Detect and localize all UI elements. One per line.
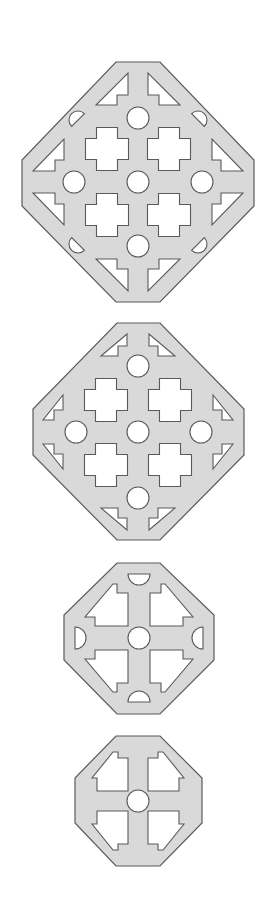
circle-hole [127,421,149,443]
circle-hole [190,421,212,443]
circle-hole [127,790,149,812]
smallest-octagon-tile [75,736,202,866]
medium-tile [33,323,244,540]
perforated-tile-diagram [0,0,275,904]
circle-hole [127,107,149,129]
circle-hole [127,171,149,193]
circle-hole [127,355,149,377]
large-tile [22,62,254,302]
circle-hole [128,627,150,649]
circle-hole [65,421,87,443]
circle-hole [127,235,149,257]
small-octagon-tile [64,563,214,714]
circle-hole [63,171,85,193]
circle-hole [191,171,213,193]
circle-hole [127,487,149,509]
